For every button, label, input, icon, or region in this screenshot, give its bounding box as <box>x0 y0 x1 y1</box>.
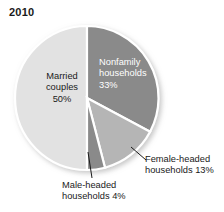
pie-label-male-line-1: Male-headed <box>62 180 157 191</box>
pie-label-nonfamily-line-2: households <box>99 68 169 79</box>
pie-chart-figure: 2010 Nonfamily households 33% Married co… <box>0 0 224 212</box>
pie-label-married-couples: Married couples 50% <box>31 71 93 105</box>
pie-label-married-value: 50% <box>31 94 93 105</box>
pie-label-female-line-1: Female-headed <box>145 154 224 165</box>
pie-label-female-line-2: households 13% <box>145 165 224 176</box>
pie-label-nonfamily-line-1: Nonfamily <box>99 57 169 68</box>
pie-label-female-headed-households: Female-headed households 13% <box>145 154 224 177</box>
pie-label-nonfamily-households: Nonfamily households 33% <box>99 57 169 91</box>
pie-label-married-line-2: couples <box>31 82 93 93</box>
pie-label-male-headed-households: Male-headed households 4% <box>62 180 157 203</box>
pie-label-nonfamily-value: 33% <box>99 80 169 91</box>
pie-label-married-line-1: Married <box>31 71 93 82</box>
pie-label-male-line-2: households 4% <box>62 191 157 202</box>
